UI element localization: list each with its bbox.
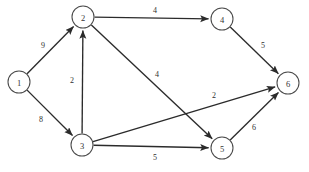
edge-weight-5-6: 6	[252, 123, 256, 132]
graph-node-6[interactable]: 6	[277, 72, 299, 94]
node-label-5: 5	[220, 144, 224, 154]
graph-canvas: 982442556 123456	[0, 0, 309, 172]
graph-edge-3-to-6	[93, 87, 275, 142]
node-label-3: 3	[80, 141, 84, 151]
graph-edge-1-to-2	[27, 27, 74, 74]
graph-edge-5-to-6	[230, 92, 278, 140]
node-label-2: 2	[81, 13, 85, 23]
graph-edge-3-to-5	[93, 145, 208, 147]
node-label-6: 6	[286, 79, 290, 89]
nodes-layer: 123456	[8, 6, 299, 159]
edge-weight-4-6: 5	[261, 41, 265, 50]
node-label-1: 1	[17, 78, 21, 88]
edge-weight-1-3: 8	[39, 115, 43, 124]
edge-weight-2-5: 4	[155, 70, 159, 79]
graph-edge-3-to-2	[82, 30, 83, 133]
edge-weight-3-5: 5	[153, 153, 157, 162]
graph-node-1[interactable]: 1	[8, 71, 30, 93]
graph-edge-2-to-4	[94, 17, 208, 19]
edge-weight-1-2: 9	[41, 41, 45, 50]
graph-node-5[interactable]: 5	[211, 137, 233, 159]
edges-layer	[27, 17, 278, 148]
edge-weight-3-2: 2	[70, 76, 74, 85]
graph-edge-4-to-6	[230, 27, 278, 74]
edge-weight-3-6: 2	[212, 91, 216, 100]
graph-edge-1-to-3	[27, 90, 72, 135]
graph-edge-2-to-5	[91, 25, 212, 139]
edge-weight-2-4: 4	[153, 6, 157, 15]
graph-node-2[interactable]: 2	[72, 6, 94, 28]
graph-node-4[interactable]: 4	[211, 8, 233, 30]
graph-node-3[interactable]: 3	[71, 134, 93, 156]
graph-figure: 982442556 123456	[0, 0, 309, 172]
